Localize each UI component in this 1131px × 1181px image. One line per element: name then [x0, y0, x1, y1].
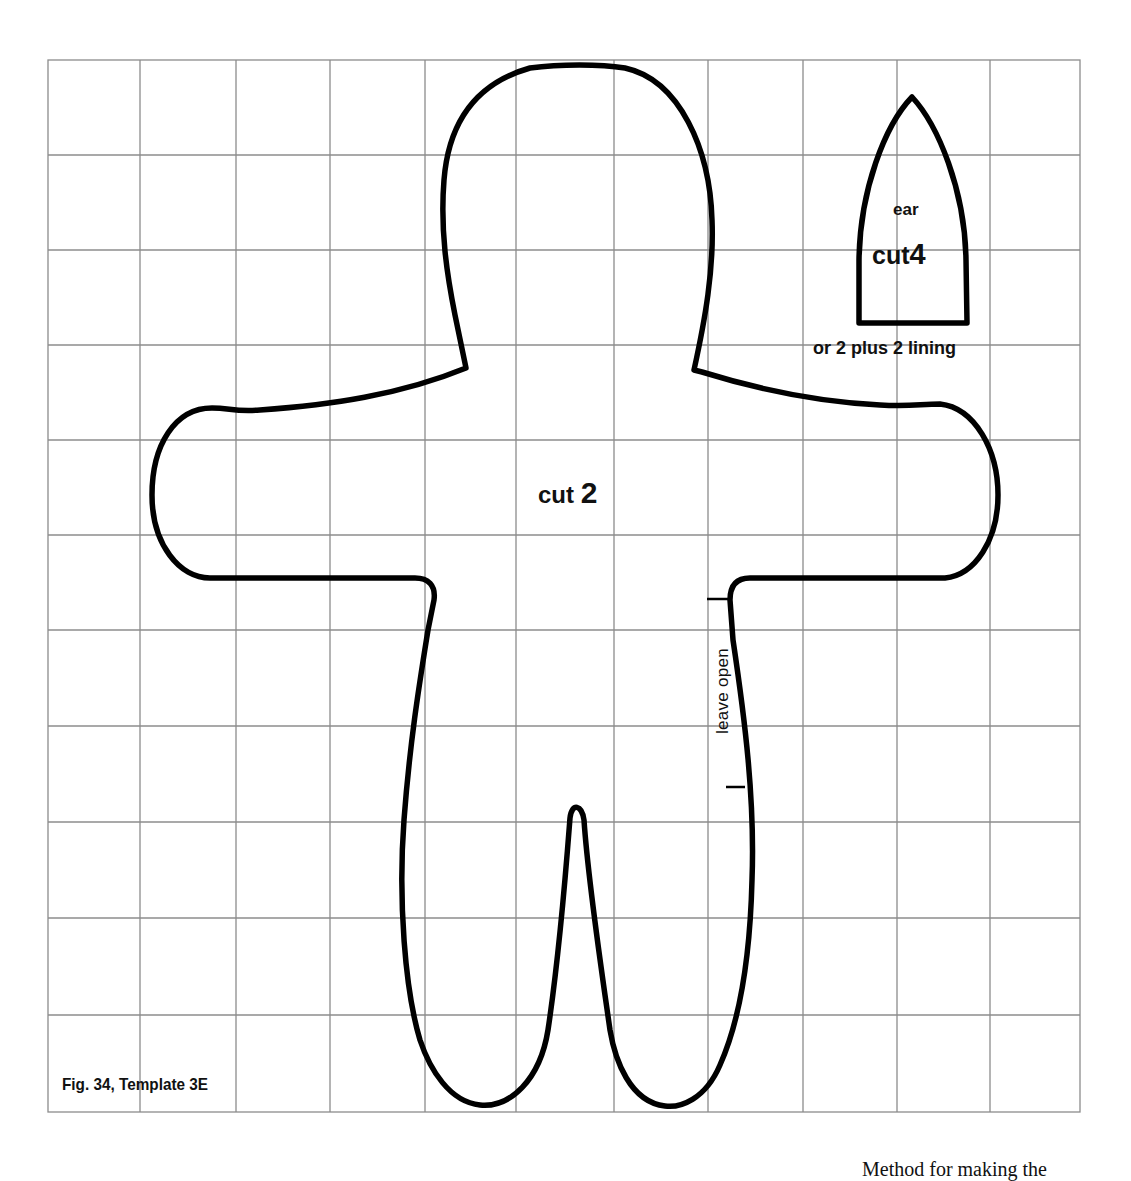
leave-open-label: leave open: [708, 616, 738, 766]
cut-word: cut: [872, 241, 910, 269]
body-outline: [152, 65, 998, 1106]
cut-word: cut: [538, 481, 574, 508]
ear-cut-label: cut4: [872, 238, 926, 271]
grid-border: [48, 60, 1080, 1112]
cut-count: 4: [910, 238, 926, 270]
ear-lining-instruction: or 2 plus 2 lining: [813, 338, 956, 359]
cut-count: 2: [581, 476, 598, 509]
page-text-fragment: Method for making the: [862, 1158, 1047, 1181]
body-cut-label: cut 2: [538, 476, 597, 510]
figure-caption: Fig. 34, Template 3E: [62, 1075, 208, 1095]
ear-name-label: ear: [893, 200, 919, 220]
leave-open-text: leave open: [713, 648, 733, 734]
grid: [48, 60, 1080, 1112]
